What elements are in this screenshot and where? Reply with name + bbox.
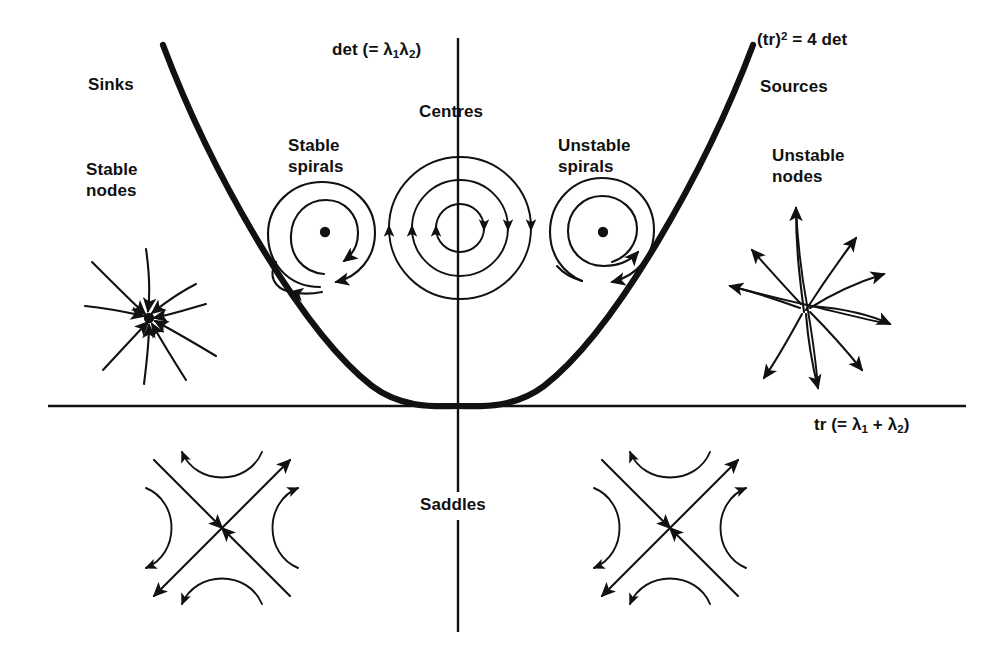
unstable-spiral-portrait <box>550 178 654 282</box>
parabola-equation-base: (tr) <box>757 30 781 49</box>
lambda-2-symbol: λ <box>399 40 409 59</box>
unstable-spirals-line-2: spirals <box>558 157 614 176</box>
region-label-unstable-spirals: Unstablespirals <box>558 136 631 177</box>
vertical-axis-label: det (= λ1λ2) <box>332 40 421 61</box>
horizontal-axis-label: tr (= λ1 + λ2) <box>814 415 910 436</box>
horizontal-axis-label-mid: + <box>868 415 888 434</box>
unstable-node-portrait <box>730 208 890 388</box>
stable-nodes-line-2: nodes <box>86 181 137 200</box>
stable-spiral-portrait <box>268 182 375 294</box>
stable-node-equilibrium-dot <box>144 313 154 323</box>
saddle-right-portrait <box>594 452 746 604</box>
parabola-equation-label: (tr)2 = 4 det <box>757 29 847 51</box>
stable-spirals-line-1: Stable <box>288 136 340 155</box>
unstable-nodes-line-2: nodes <box>772 167 823 186</box>
lambda-2-symbol: λ <box>888 415 898 434</box>
phase-portraits-layer <box>0 0 994 658</box>
lambda-1-symbol: λ <box>383 40 393 59</box>
region-label-stable-nodes: Stablenodes <box>86 160 138 201</box>
unstable-nodes-line-1: Unstable <box>772 146 845 165</box>
region-label-unstable-nodes: Unstablenodes <box>772 146 845 187</box>
horizontal-axis-label-post: ) <box>904 415 910 434</box>
trace-determinant-diagram: det (= λ1λ2) tr (= λ1 + λ2) (tr)2 = 4 de… <box>0 0 994 658</box>
stable-spirals-line-2: spirals <box>288 157 344 176</box>
region-label-centres: Centres <box>419 102 483 123</box>
stable-node-portrait <box>85 249 216 384</box>
region-label-stable-spirals: Stablespirals <box>288 136 344 177</box>
unstable-spiral-equilibrium-dot <box>598 227 608 237</box>
region-label-sinks: Sinks <box>88 75 134 96</box>
horizontal-axis-label-pre: tr (= <box>814 415 852 434</box>
region-label-sources: Sources <box>760 77 828 98</box>
unstable-spirals-line-1: Unstable <box>558 136 631 155</box>
vertical-axis-label-post: ) <box>415 40 421 59</box>
stable-nodes-line-1: Stable <box>86 160 138 179</box>
region-label-saddles: Saddles <box>420 495 486 516</box>
saddle-left-portrait <box>146 452 298 604</box>
vertical-axis-label-pre: det (= <box>332 40 383 59</box>
parabola-equation-rest: = 4 det <box>788 30 848 49</box>
stable-spiral-equilibrium-dot <box>320 227 330 237</box>
centre-portrait <box>389 157 531 299</box>
